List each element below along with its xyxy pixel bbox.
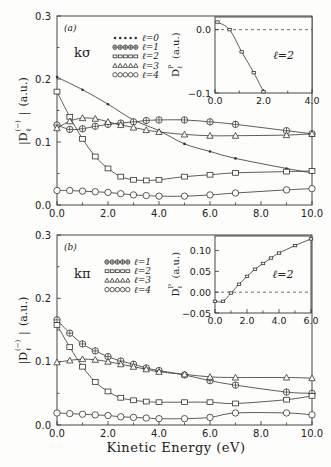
svg-text:(a.u.): (a.u.) — [17, 297, 30, 326]
marker-square — [105, 270, 109, 273]
marker-circle — [67, 410, 73, 416]
marker-square — [124, 55, 128, 58]
marker-circle — [110, 287, 114, 291]
marker-triangle — [113, 63, 117, 67]
marker-square — [240, 51, 243, 53]
marker-square — [54, 89, 60, 94]
marker-circle — [128, 73, 132, 77]
marker-triangle — [123, 63, 127, 67]
panel-b: 0.02.04.06.08.010.00.00.10.20.3|Dℓ(−)|(a… — [14, 230, 323, 440]
marker-square — [92, 154, 98, 159]
svg-text:ℓ: ℓ — [176, 285, 184, 288]
x-tick-label: 10.0 — [301, 208, 323, 219]
marker-square — [143, 399, 149, 404]
marker-circle — [92, 189, 98, 195]
marker-square — [105, 166, 111, 171]
svg-text:(a.u.): (a.u.) — [17, 77, 30, 106]
y-tick-label: 0.2 — [35, 74, 51, 85]
marker-square — [284, 169, 290, 174]
inset-y-tick-label: −0.1 — [188, 88, 211, 99]
svg-text:P: P — [167, 284, 175, 289]
marker-square — [229, 292, 232, 294]
x-tick-label: 4.0 — [151, 208, 167, 219]
marker-square — [252, 72, 255, 74]
series-line — [57, 325, 312, 404]
inset-y-label: DPℓ(a.u.) — [167, 32, 184, 77]
x-tick-label: 10.0 — [301, 428, 323, 439]
marker-circle — [156, 193, 162, 199]
marker-star — [124, 37, 127, 40]
inset: 0.02.04.00.0−0.1DPℓ(a.u.)ℓ=2 — [167, 17, 320, 106]
marker-circle — [105, 412, 111, 418]
marker-triangle — [115, 278, 119, 282]
svg-text:D: D — [170, 69, 181, 77]
marker-square — [309, 393, 315, 398]
marker-square — [113, 55, 117, 58]
x-tick-label: 0.0 — [49, 428, 65, 439]
series-l2 — [54, 323, 315, 406]
marker-square — [131, 177, 137, 182]
inset-frame — [215, 236, 311, 313]
marker-circle — [309, 412, 315, 418]
svg-text:(−): (−) — [14, 120, 22, 132]
marker-circle — [54, 410, 60, 416]
marker-circle — [156, 415, 162, 421]
marker-circle — [123, 73, 127, 77]
panel-label: (b) — [64, 242, 77, 252]
marker-star — [119, 37, 122, 40]
series-l4 — [54, 185, 315, 199]
y-tick-label: 0.0 — [35, 200, 51, 211]
x-tick-label: 6.0 — [202, 428, 218, 439]
marker-square — [213, 300, 216, 302]
marker-circle — [118, 190, 124, 196]
marker-square — [245, 275, 248, 277]
inset: 0.02.04.06.00.100.050.00−0.05DPℓ(a.u.)ℓ=… — [167, 236, 319, 326]
marker-circle — [232, 410, 238, 416]
marker-circle — [130, 414, 136, 420]
svg-text:|: | — [17, 112, 31, 116]
y-axis-label: |Dℓ(−)|(a.u.) — [14, 77, 33, 145]
marker-square — [126, 270, 130, 273]
inset-x-tick-label: 2.0 — [256, 95, 271, 106]
marker-triangle — [126, 278, 130, 282]
marker-star — [183, 143, 186, 146]
x-tick-label: 8.0 — [253, 428, 269, 439]
marker-square — [221, 300, 224, 302]
inset-x-tick-label: 6.0 — [303, 315, 318, 326]
marker-square — [143, 178, 149, 183]
marker-triangle — [120, 278, 124, 282]
marker-square — [207, 172, 213, 177]
x-axis-label: Kinetic Energy (eV) — [106, 440, 245, 455]
marker-square — [253, 268, 256, 270]
marker-square — [110, 270, 114, 273]
marker-circle — [130, 192, 136, 198]
marker-circle — [92, 412, 98, 418]
svg-text:ℓ: ℓ — [176, 66, 184, 69]
marker-circle — [54, 187, 60, 193]
marker-square — [309, 169, 315, 174]
marker-square — [237, 283, 240, 285]
marker-circle — [181, 193, 187, 199]
legend: ℓ=0ℓ=1ℓ=2ℓ=3ℓ=4 — [113, 33, 159, 80]
marker-square — [129, 55, 133, 58]
svg-text:D: D — [170, 288, 181, 296]
x-tick-label: 2.0 — [100, 208, 116, 219]
marker-star — [114, 37, 117, 40]
series-l3 — [54, 356, 315, 381]
legend-label: ℓ=4 — [134, 285, 151, 295]
marker-star — [107, 103, 110, 106]
panel-label: (a) — [64, 23, 77, 33]
svg-text:ℓ: ℓ — [25, 348, 33, 351]
svg-text:ℓ: ℓ — [25, 128, 33, 131]
inset-x-tick-label: 4.0 — [304, 95, 319, 106]
svg-text:(a.u.): (a.u.) — [170, 252, 181, 279]
marker-circle — [143, 415, 149, 421]
inset-y-tick-label: 0.0 — [196, 24, 211, 35]
marker-circle — [126, 287, 130, 291]
inset-x-tick-label: 4.0 — [271, 315, 286, 326]
y-tick-label: 0.1 — [35, 356, 51, 367]
svg-text:P: P — [167, 64, 175, 69]
marker-square — [118, 395, 124, 400]
marker-circle — [207, 192, 213, 198]
svg-text:(a.u.): (a.u.) — [170, 32, 181, 59]
